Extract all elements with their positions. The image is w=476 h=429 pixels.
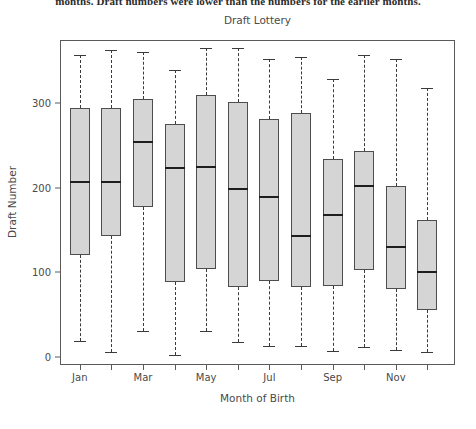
y-tick-label: 200 [32,182,51,193]
plot-area: 0100200300 JanMarMayJulSepNov [60,40,455,365]
x-tick-mark [427,365,428,370]
box-rect [417,220,437,310]
x-tick-label-jan: Jan [72,372,87,383]
y-tick-label: 100 [32,267,51,278]
x-tick-mark [364,365,365,370]
median-line [417,271,437,273]
x-tick-label-nov: Nov [386,372,406,383]
y-axis-label: Draft Number [6,166,18,238]
x-tick-mark [143,365,144,370]
whisker-upper [427,88,428,220]
x-tick-label-mar: Mar [134,372,153,383]
chart-title: Draft Lottery [60,14,455,26]
cap-lower [421,352,433,353]
x-tick-mark [111,365,112,370]
x-tick-mark [206,365,207,370]
x-tick-label-may: May [196,372,217,383]
box-dec [60,40,455,365]
x-tick-mark [269,365,270,370]
x-tick-mark [238,365,239,370]
y-tick-label: 0 [45,351,51,362]
x-tick-mark [80,365,81,370]
y-tick-label: 300 [32,98,51,109]
cap-upper [421,88,433,89]
x-tick-label-sep: Sep [323,372,342,383]
x-tick-mark [396,365,397,370]
x-tick-mark [333,365,334,370]
x-axis-label: Month of Birth [60,392,455,404]
x-tick-mark [175,365,176,370]
x-tick-mark [301,365,302,370]
x-tick-label-jul: Jul [263,372,275,383]
whisker-lower [427,310,428,352]
draft-lottery-figure: Draft Lottery Draft Number Month of Birt… [0,0,476,429]
